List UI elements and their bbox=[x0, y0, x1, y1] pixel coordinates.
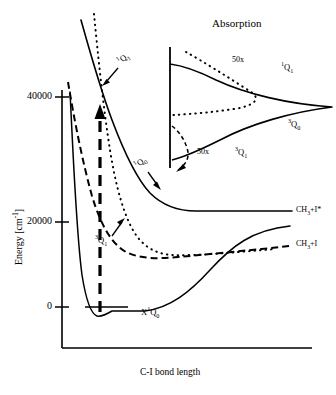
x-axis-title: C-I bond length bbox=[140, 368, 200, 378]
inset-label-3q1-sub: 1 bbox=[244, 153, 247, 159]
state-label-ground-x1q0: X1Q0 bbox=[141, 308, 159, 317]
y-axis-title: Energy [cm-1] bbox=[14, 209, 24, 265]
inset-label-1q1-sub: 1 bbox=[290, 68, 293, 74]
leader-arrow-3q1 bbox=[112, 218, 125, 236]
product-label-ground: CH3+I bbox=[296, 240, 317, 248]
state-label-3q1-sub: 1 bbox=[104, 241, 107, 247]
curve-ground-state-x1q0 bbox=[70, 92, 290, 316]
leader-arrow-1q1 bbox=[102, 68, 118, 86]
curve-3q0 bbox=[81, 20, 292, 211]
y-axis-title-text: Energy [cm bbox=[13, 218, 24, 265]
inset-title: Absorption bbox=[212, 18, 262, 29]
state-label-ground-sub: 0 bbox=[156, 313, 159, 319]
y-axis-title-exponent: -1 bbox=[12, 212, 20, 218]
inset-label-3q0: 3Q0 bbox=[288, 120, 300, 129]
inset-label-3q1: 3Q1 bbox=[235, 148, 247, 157]
potential-energy-diagram: 40000 20000 0 Energy [cm-1] C-I bond len… bbox=[0, 0, 336, 395]
inset-band-3q0 bbox=[170, 64, 332, 160]
franck-condon-transition-arrow bbox=[95, 104, 106, 312]
state-label-3q1: 3Q1 bbox=[95, 236, 107, 245]
y-tick-label-40000: 40000 bbox=[14, 91, 52, 101]
y-axis-title-bracket: ] bbox=[13, 209, 24, 212]
y-tick-label-0: 0 bbox=[14, 301, 52, 311]
inset-magnification-lower: 50x bbox=[197, 148, 209, 156]
inset-band-3q1 bbox=[172, 126, 188, 170]
curve-1q1 bbox=[94, 14, 276, 255]
product-label-excited: CH3+I* bbox=[296, 206, 321, 214]
inset-absorption-spectrum bbox=[170, 47, 332, 172]
product-label-ground-formula: CH bbox=[296, 239, 307, 248]
inset-label-1q1: 1Q1 bbox=[281, 63, 293, 72]
product-label-ground-tail: +I bbox=[310, 239, 317, 248]
product-label-excited-tail: +I* bbox=[310, 205, 321, 214]
leader-arrow-1q0 bbox=[148, 172, 161, 190]
inset-magnification-upper: 50x bbox=[232, 56, 244, 64]
inset-label-3q0-sub: 0 bbox=[297, 125, 300, 131]
product-label-excited-formula: CH bbox=[296, 205, 307, 214]
figure-canvas bbox=[0, 0, 336, 395]
